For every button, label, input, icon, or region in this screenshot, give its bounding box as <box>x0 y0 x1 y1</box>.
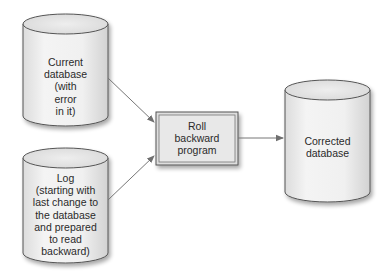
label-line: backward <box>159 132 235 144</box>
label-line: Log <box>20 172 111 184</box>
label-line: database <box>23 68 108 80</box>
label-line: (with <box>23 80 108 92</box>
label-line: last change to <box>20 196 111 208</box>
label-line: and prepared <box>20 221 111 233</box>
label-line: to read <box>20 233 111 245</box>
arrow-current-to-program <box>108 78 154 122</box>
label-line: (starting with <box>20 184 111 196</box>
label-line: Current <box>23 56 108 68</box>
label-line: Roll <box>159 120 235 132</box>
label-line: the database <box>20 209 111 221</box>
label-line: program <box>159 144 235 156</box>
roll-backward-program-label: Roll backward program <box>159 120 235 157</box>
label-line: database <box>285 147 370 159</box>
label-line: backward) <box>20 245 111 257</box>
label-line: Corrected <box>285 135 370 147</box>
label-line: error <box>23 93 108 105</box>
current-database-label: Current database (with error in it) <box>23 56 108 117</box>
label-line: in it) <box>23 105 108 117</box>
corrected-database-label: Corrected database <box>285 135 370 159</box>
arrow-log-to-program <box>108 156 154 200</box>
log-label: Log (starting with last change to the da… <box>20 172 111 257</box>
